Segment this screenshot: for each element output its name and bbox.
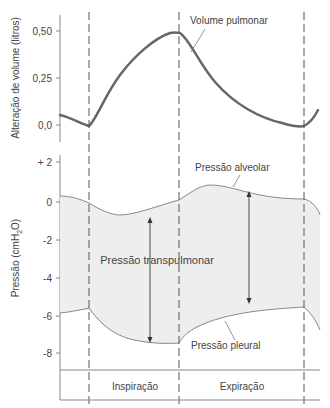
volume-curve [60,33,318,127]
upper-y-axis-title: Alteração de volume (litros) [10,17,21,139]
upper-tick-label: 0,50 [33,26,53,37]
phase-expiracao: Expiração [220,381,265,392]
respiratory-chart: 0,50 0,25 0,0 Alteração de volume (litro… [0,0,330,408]
lower-tick-label: -8 [43,348,52,359]
lower-tick-label: -4 [43,273,52,284]
phase-inspiracao: Inspiração [112,381,159,392]
pleural-pointer [225,321,235,340]
lower-tick-label: 0 [46,197,52,208]
upper-tick-label: 0,0 [38,120,52,131]
volume-pointer [191,29,205,52]
lower-tick-label: -2 [43,235,52,246]
transpulmonar-label: Pressão transpulmonar [100,254,214,266]
lower-tick-label: -6 [43,311,52,322]
upper-tick-label: 0,25 [33,73,53,84]
alveolar-pointer [233,175,240,187]
lower-tick-label: + 2 [38,157,53,168]
lower-y-axis-title: Pressão (cmH2O) [10,219,23,297]
alveolar-label: Pressão alveolar [195,162,270,173]
volume-label: Volume pulmonar [190,15,268,26]
pleural-label: Pressão pleural [191,340,260,351]
